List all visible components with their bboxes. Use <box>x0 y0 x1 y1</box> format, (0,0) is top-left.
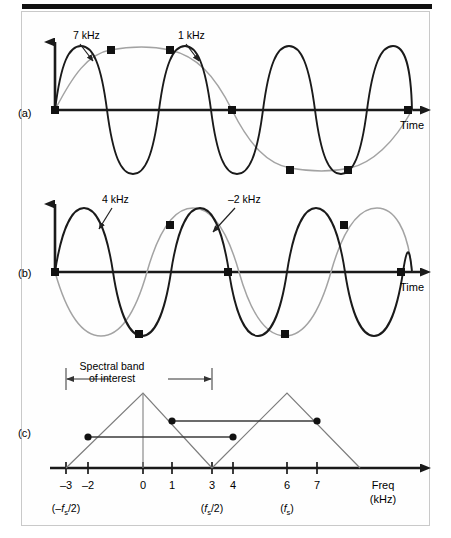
panel-c-label: (c) <box>18 427 31 439</box>
panel-c-triangle-baseband <box>66 393 212 468</box>
panel-b: (b) 4 kHz –2 kHz Time <box>18 193 424 338</box>
panel-c-marker-point <box>229 433 236 440</box>
panel-b-leader-4khz <box>99 208 112 229</box>
panel-c-marker-point <box>168 417 175 424</box>
panel-c-band-label-line1: Spectral band <box>80 360 145 372</box>
panel-a-label-7khz: 7 kHz <box>73 29 100 41</box>
panel-a-sample-point <box>286 166 294 174</box>
panel-c-band-label-line2: of interest <box>89 372 135 384</box>
figure-container: (a) 7 kHz 1 kHz Time <box>0 0 451 538</box>
panel-c-tick-label: –3 <box>60 479 72 491</box>
panel-c-tick-label: 0 <box>140 479 146 491</box>
panel-c-tick-label: 6 <box>284 479 290 491</box>
panel-a-axis-label: Time <box>400 119 424 131</box>
panel-c-tick-label: –2 <box>82 479 94 491</box>
panel-a-sample-point <box>166 46 174 54</box>
panel-c-tick-label: 3 <box>209 479 215 491</box>
figure-svg: (a) 7 kHz 1 kHz Time <box>0 0 451 538</box>
panel-b-sample-point <box>281 330 289 338</box>
panel-c-axis-label-line1: Freq <box>372 479 395 491</box>
panel-a-sample-point <box>107 46 115 54</box>
panel-b-label: (b) <box>18 267 31 279</box>
panel-b-sample-point <box>340 221 348 229</box>
panel-c-tick-label: 1 <box>169 479 175 491</box>
panel-b-axis-label: Time <box>400 281 424 293</box>
panel-c-tick-label: 7 <box>314 479 320 491</box>
panel-b-sample-point <box>135 330 143 338</box>
panel-a-sample-point <box>404 106 412 114</box>
panel-a-sample-point <box>51 106 59 114</box>
panel-a-sample-point <box>344 166 352 174</box>
panel-c-triangle-replica <box>212 393 360 468</box>
panel-b-sample-point <box>224 268 232 276</box>
panel-b-label-4khz: 4 kHz <box>102 193 129 205</box>
panel-c: (c) <box>18 360 420 517</box>
panel-c-sublabel-fs-half: (fs/2) <box>201 502 223 517</box>
panel-a-leader-1khz <box>186 44 199 61</box>
panel-c-axis-label-line2: (kHz) <box>370 493 396 505</box>
panel-a-sample-point <box>228 106 236 114</box>
panel-a-label-1khz: 1 kHz <box>178 29 205 41</box>
panel-b-label-neg2khz: –2 kHz <box>228 193 261 205</box>
panel-b-leader-neg2khz <box>213 208 235 232</box>
panel-b-sample-point <box>51 268 59 276</box>
panel-a: (a) 7 kHz 1 kHz Time <box>18 29 424 174</box>
panel-c-sublabel-neg-fs-half: (–fs/2) <box>52 502 80 517</box>
panel-c-marker-point <box>84 433 91 440</box>
panel-c-tick-label: 4 <box>230 479 236 491</box>
panel-c-marker-point <box>313 417 320 424</box>
panel-a-label: (a) <box>18 107 31 119</box>
panel-b-sample-point <box>166 221 174 229</box>
panel-b-sample-point <box>397 268 405 276</box>
panel-c-sublabel-fs: (fs) <box>280 502 294 517</box>
